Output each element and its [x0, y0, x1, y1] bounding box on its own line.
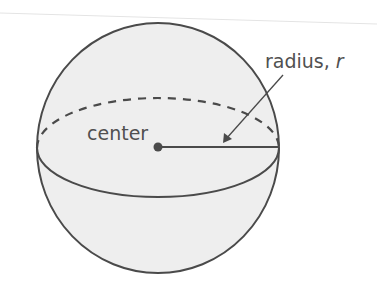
center-label: center: [87, 122, 148, 144]
radius-label-word: radius,: [265, 50, 336, 72]
page-edge-line: [0, 13, 377, 24]
radius-label: radius, r: [265, 50, 345, 72]
center-point: [154, 143, 163, 152]
sphere-diagram: center radius, r: [0, 0, 377, 285]
radius-variable: r: [336, 50, 345, 72]
